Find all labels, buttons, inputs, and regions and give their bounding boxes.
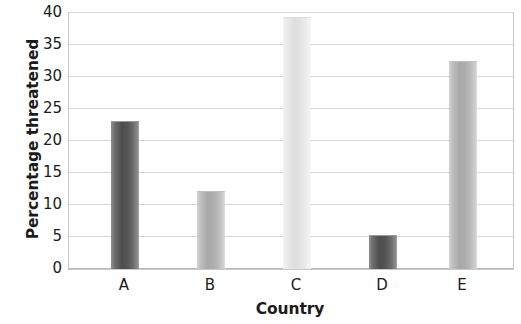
- plot-area: [68, 12, 514, 270]
- x-axis-title: Country: [68, 300, 512, 318]
- bar-d[interactable]: [369, 235, 397, 269]
- bar-b[interactable]: [197, 191, 225, 269]
- bar-e[interactable]: [449, 61, 477, 269]
- y-tick-label: 20: [30, 133, 62, 148]
- y-tick-label: 10: [30, 197, 62, 212]
- y-tick-label: 15: [30, 165, 62, 180]
- bar-c[interactable]: [283, 17, 311, 269]
- x-axis-tick-labels: A B C D E: [0, 278, 521, 302]
- y-tick-label: 25: [30, 101, 62, 116]
- y-tick-label: 35: [30, 37, 62, 52]
- y-tick-label: 5: [30, 229, 62, 244]
- x-tick-label: D: [352, 278, 412, 293]
- x-tick-label: E: [432, 278, 492, 293]
- y-axis-tick-labels: 40 35 30 25 20 15 10 5 0: [30, 0, 62, 324]
- x-tick-label: B: [180, 278, 240, 293]
- bar-a[interactable]: [111, 121, 139, 269]
- bar-chart: Percentage threatened 40 35 30 25 20 15 …: [0, 0, 521, 324]
- x-tick-label: C: [266, 278, 326, 293]
- y-tick-label: 0: [30, 261, 62, 276]
- y-tick-label: 40: [30, 5, 62, 20]
- y-tick-label: 30: [30, 69, 62, 84]
- x-tick-label: A: [94, 278, 154, 293]
- bars-layer: [69, 13, 513, 269]
